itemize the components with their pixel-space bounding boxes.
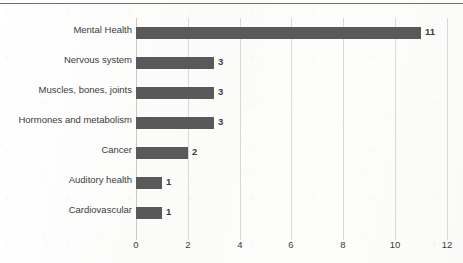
category-label: Auditory health bbox=[0, 173, 132, 186]
bar-value-label: 3 bbox=[218, 55, 223, 68]
horizontal-bar-chart: Mental Health Nervous system Muscles, bo… bbox=[0, 0, 463, 263]
plot-area: 11 3 3 3 2 1 1 bbox=[136, 18, 447, 240]
x-tick-label: 0 bbox=[133, 238, 138, 251]
category-axis-labels: Mental Health Nervous system Muscles, bo… bbox=[0, 18, 132, 240]
category-label: Mental Health bbox=[0, 23, 132, 36]
bar[interactable] bbox=[136, 177, 162, 189]
bar[interactable] bbox=[136, 117, 214, 129]
bar[interactable] bbox=[136, 147, 188, 159]
bar[interactable] bbox=[136, 57, 214, 69]
x-tick-label: 4 bbox=[237, 238, 242, 251]
bar-value-label: 3 bbox=[218, 85, 223, 98]
gridline-12 bbox=[447, 18, 448, 240]
category-label: Hormones and metabolism bbox=[0, 113, 132, 126]
bar[interactable] bbox=[136, 87, 214, 99]
x-tick-label: 2 bbox=[185, 238, 190, 251]
bar-value-label: 1 bbox=[166, 205, 171, 218]
gridline-2 bbox=[188, 18, 189, 240]
top-border-rule bbox=[0, 3, 463, 4]
bar-value-label: 2 bbox=[192, 145, 197, 158]
x-tick-label: 6 bbox=[288, 238, 293, 251]
gridline-10 bbox=[395, 18, 396, 240]
bar-value-label: 11 bbox=[425, 25, 435, 38]
gridline-8 bbox=[343, 18, 344, 240]
x-tick-label: 8 bbox=[340, 238, 345, 251]
bar[interactable] bbox=[136, 207, 162, 219]
category-label: Muscles, bones, joints bbox=[0, 83, 132, 96]
x-tick-label: 10 bbox=[390, 238, 401, 251]
category-label: Cancer bbox=[0, 143, 132, 156]
category-label: Nervous system bbox=[0, 53, 132, 66]
category-label: Cardiovascular bbox=[0, 203, 132, 216]
bar-value-label: 3 bbox=[218, 115, 223, 128]
gridline-4 bbox=[240, 18, 241, 240]
value-axis-labels: 0 2 4 6 8 10 12 bbox=[136, 238, 447, 254]
x-tick-label: 12 bbox=[442, 238, 453, 251]
gridline-6 bbox=[291, 18, 292, 240]
bar-value-label: 1 bbox=[166, 175, 171, 188]
bar[interactable] bbox=[136, 27, 421, 39]
